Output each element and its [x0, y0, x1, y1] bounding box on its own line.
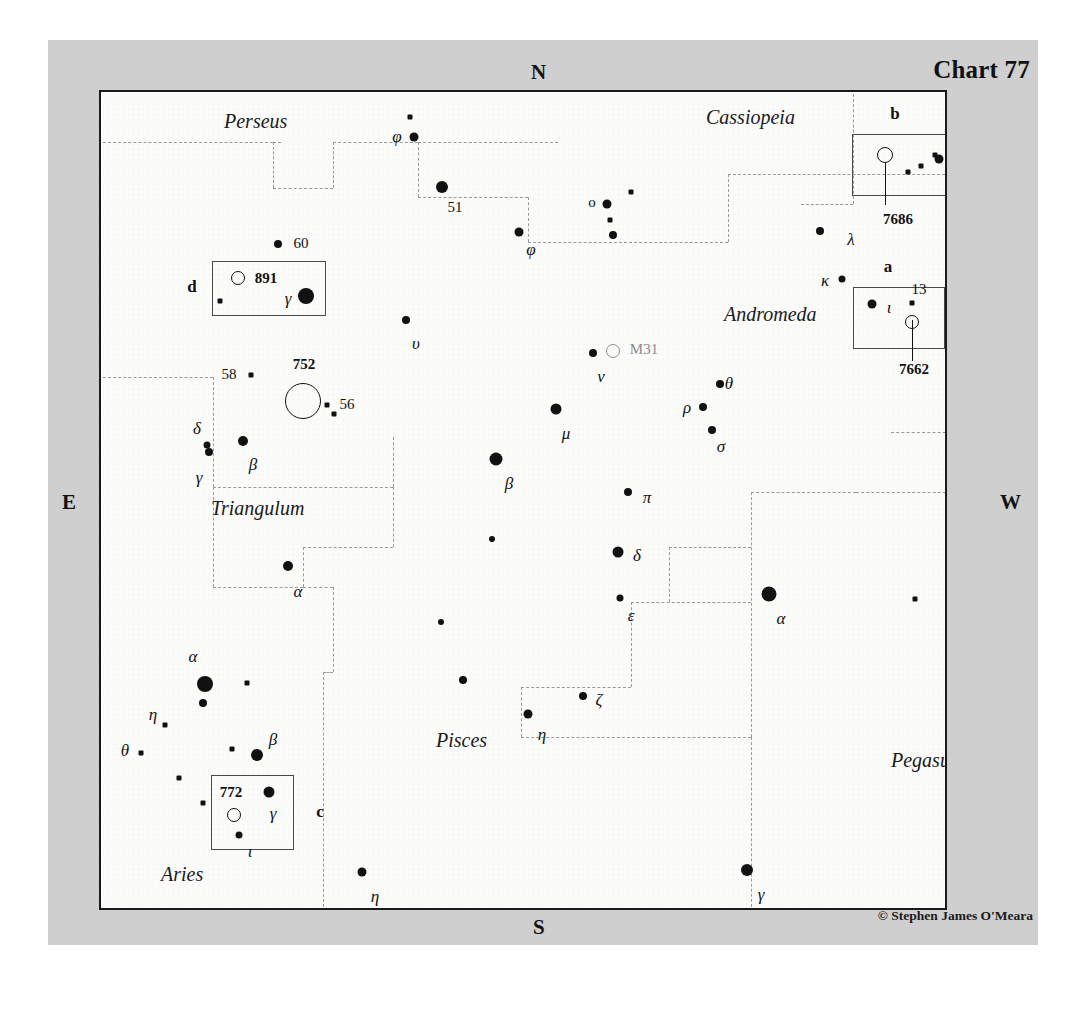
deep-sky-marker — [231, 271, 245, 285]
boundary-segment — [528, 197, 529, 242]
star-label: σ — [717, 437, 725, 457]
chart-title: Chart 77 — [933, 56, 1030, 84]
star-marker — [358, 868, 367, 877]
boundary-segment — [669, 547, 751, 548]
star-marker — [490, 453, 503, 466]
star-marker — [205, 448, 213, 456]
boundary-segment — [418, 142, 558, 143]
inset-c-letter: c — [316, 802, 324, 822]
boundary-segment — [323, 672, 324, 910]
star-label: δ — [633, 546, 641, 566]
deep-sky-label: M31 — [630, 341, 658, 358]
constellation-label: Cassiopeia — [706, 106, 795, 129]
compass-label-west: W — [1000, 490, 1021, 515]
star-label: 58 — [222, 366, 237, 383]
inset-c-object-label: 772 — [220, 784, 243, 801]
inset-b-letter: b — [890, 104, 899, 124]
inset-a-object-label: 7662 — [899, 361, 929, 378]
star-label: η — [538, 725, 546, 745]
constellation-label: Triangulum — [211, 497, 304, 520]
boundary-segment — [303, 547, 393, 548]
star-label: 60 — [294, 235, 309, 252]
inset-a-letter: a — [884, 257, 893, 277]
star-label: π — [643, 488, 652, 508]
star-marker — [325, 403, 330, 408]
deep-sky-marker — [285, 383, 321, 419]
star-marker — [524, 710, 533, 719]
star-label: ν — [597, 367, 605, 387]
star-marker — [218, 299, 223, 304]
star-marker — [716, 380, 724, 388]
star-marker — [139, 751, 144, 756]
star-marker — [332, 412, 337, 417]
star-marker — [617, 595, 624, 602]
constellation-label: Perseus — [224, 110, 287, 133]
star-marker — [249, 373, 254, 378]
boundary-segment — [751, 492, 856, 493]
star-marker — [913, 597, 918, 602]
star-marker — [264, 787, 275, 798]
star-label: β — [505, 474, 513, 494]
boundary-segment — [631, 602, 751, 603]
star-label: λ — [847, 230, 854, 250]
star-marker — [238, 436, 248, 446]
star-marker — [436, 181, 448, 193]
star-marker — [408, 115, 413, 120]
star-marker — [274, 240, 282, 248]
star-marker — [410, 133, 419, 142]
deep-sky-label: 752 — [293, 356, 316, 373]
star-marker — [935, 155, 944, 164]
boundary-segment — [213, 377, 214, 487]
boundary-segment — [521, 737, 751, 738]
star-marker — [251, 749, 263, 761]
constellation-label: Pegasus — [891, 749, 947, 772]
star-marker — [163, 723, 168, 728]
star-marker — [515, 228, 524, 237]
inset-d-letter: d — [187, 277, 196, 297]
boundary-segment — [103, 377, 213, 378]
star-label: α — [777, 609, 786, 629]
star-chart-page: N S E W Chart 77 © Stephen James O'Meara… — [0, 0, 1085, 1025]
star-marker — [762, 587, 777, 602]
star-label: γ — [285, 289, 292, 309]
star-marker — [839, 276, 846, 283]
boundary-segment — [856, 492, 947, 493]
star-label: γ — [196, 468, 203, 488]
compass-label-east: E — [62, 490, 76, 515]
star-marker — [629, 190, 634, 195]
boundary-segment — [303, 547, 304, 587]
star-marker — [699, 403, 707, 411]
star-label: α — [189, 647, 198, 667]
boundary-segment — [521, 687, 522, 737]
star-label: η — [149, 705, 157, 725]
star-label: θ — [121, 741, 129, 761]
boundary-segment — [751, 737, 752, 910]
star-label: θ — [725, 374, 733, 394]
inset-d-object-label: 891 — [255, 270, 278, 287]
boundary-segment — [273, 142, 281, 143]
inset-b-leader-line — [885, 162, 886, 205]
star-marker — [624, 488, 632, 496]
star-marker — [608, 218, 613, 223]
deep-sky-marker — [227, 808, 241, 822]
boundary-segment — [213, 487, 393, 488]
star-marker — [910, 301, 915, 306]
star-label: γ — [758, 885, 765, 905]
boundary-segment — [273, 188, 333, 189]
star-label: ζ — [596, 690, 603, 710]
star-label: ρ — [683, 398, 691, 418]
compass-label-north: N — [531, 60, 546, 85]
boundary-segment — [213, 587, 303, 588]
star-label: β — [249, 455, 257, 475]
star-label: 51 — [448, 199, 463, 216]
star-marker — [201, 801, 206, 806]
inset-b-object-label: 7686 — [883, 211, 913, 228]
galaxy-marker — [606, 344, 620, 358]
boundary-segment — [891, 432, 947, 433]
boundary-segment — [103, 142, 273, 143]
deep-sky-marker — [905, 315, 919, 329]
star-label: 13 — [912, 281, 927, 298]
star-marker — [230, 747, 235, 752]
star-label: ο — [588, 194, 596, 211]
star-marker — [438, 619, 444, 625]
